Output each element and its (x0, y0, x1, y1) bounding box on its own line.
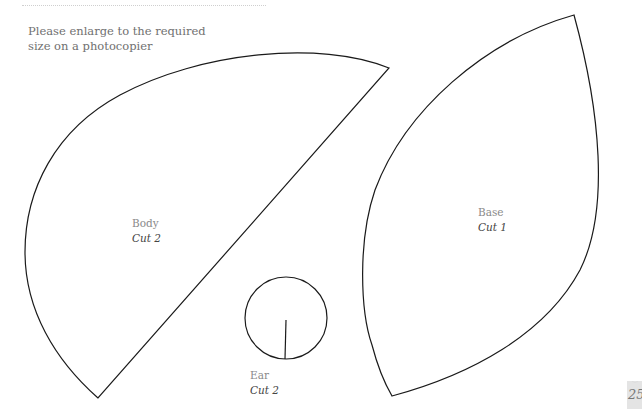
ear-piece-name: Ear (250, 368, 279, 383)
body-cut-count: Cut 2 (132, 231, 161, 246)
ear-cut-count: Cut 2 (250, 383, 279, 398)
ear-pattern-piece (245, 277, 327, 359)
body-label: Body Cut 2 (132, 216, 161, 246)
body-piece-name: Body (132, 216, 161, 231)
page-number-tag: 25 (627, 381, 642, 409)
ear-slit-line (285, 320, 286, 359)
base-piece-name: Base (478, 205, 507, 220)
base-label: Base Cut 1 (478, 205, 507, 235)
ear-label: Ear Cut 2 (250, 368, 279, 398)
body-pattern-piece (25, 53, 389, 398)
base-cut-count: Cut 1 (478, 220, 507, 235)
